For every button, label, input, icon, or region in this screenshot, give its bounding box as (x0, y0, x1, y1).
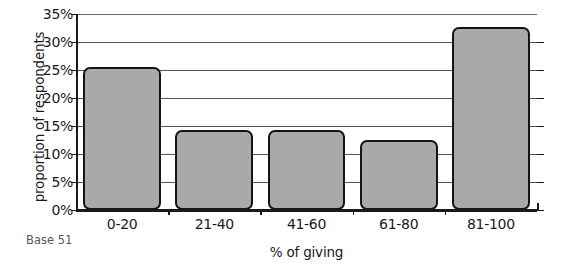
x-axis-tick-labels: 0-2021-4041-6061-8081-100 (76, 214, 537, 236)
x-axis-tick-label: 0-20 (76, 214, 168, 234)
y-axis-tick-label: 35% (26, 7, 73, 21)
x-axis-tick-label: 41-60 (260, 214, 352, 234)
bar (83, 67, 161, 210)
x-axis-tick-label: 21-40 (168, 214, 260, 234)
plot-area (76, 14, 537, 210)
x-axis-tick-label: 61-80 (353, 214, 445, 234)
x-axis-end-cap (537, 203, 539, 210)
x-axis-line (76, 209, 538, 211)
x-axis-tick-label: 81-100 (445, 214, 537, 234)
right-axis-ticks (537, 14, 544, 210)
right-axis-tick (537, 210, 544, 211)
bar (175, 130, 253, 210)
x-axis-tick (353, 210, 354, 215)
base-note: Base 51 (26, 232, 72, 248)
x-axis-title: % of giving (76, 243, 537, 261)
bar (452, 27, 530, 210)
x-axis-tick (445, 210, 446, 215)
right-axis-tick (537, 70, 544, 71)
right-axis-tick (537, 182, 544, 183)
y-axis-tick-label: 10% (26, 147, 73, 161)
x-axis-start-cap (76, 203, 78, 210)
x-axis-tick (168, 210, 169, 215)
y-axis-tick-labels: 0%5%10%15%20%25%30%35% (26, 14, 73, 210)
right-axis-tick (537, 98, 544, 99)
bar (268, 130, 346, 210)
y-axis-tick-label: 0% (26, 203, 73, 217)
bar (360, 140, 438, 210)
y-axis-tick-label: 25% (26, 63, 73, 77)
y-axis-tick-label: 30% (26, 35, 73, 49)
right-axis-tick (537, 42, 544, 43)
y-axis-tick-label: 5% (26, 175, 73, 189)
bar-chart: proportion of respondents 0%5%10%15%20%2… (0, 0, 575, 280)
x-axis-tick (260, 210, 261, 215)
right-axis-tick (537, 154, 544, 155)
y-axis-tick-label: 15% (26, 119, 73, 133)
bars-layer (76, 14, 537, 210)
right-axis-tick (537, 126, 544, 127)
y-axis-tick-label: 20% (26, 91, 73, 105)
